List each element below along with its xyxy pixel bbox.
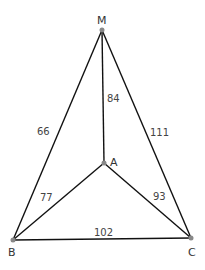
graph-diagram: M A B C 66 84 111 77 93 102 (0, 0, 205, 270)
edge-m-a (102, 30, 104, 163)
weight-m-c: 111 (150, 127, 169, 138)
edge-a-c (104, 163, 191, 238)
weight-m-b: 66 (37, 126, 50, 137)
weight-m-a: 84 (107, 93, 120, 104)
weight-a-c: 93 (153, 191, 166, 202)
edge-m-c (102, 30, 191, 238)
edge-a-b (13, 163, 104, 240)
node-label-b: B (8, 246, 16, 259)
weight-a-b: 77 (40, 192, 53, 203)
node-a (102, 161, 107, 166)
edge-b-c (13, 238, 191, 240)
node-label-c: C (188, 246, 196, 259)
node-m (100, 28, 105, 33)
node-c (189, 236, 194, 241)
edge-m-b (13, 30, 102, 240)
node-label-a: A (110, 156, 118, 169)
node-b (11, 238, 16, 243)
weight-b-c: 102 (94, 227, 113, 238)
node-label-m: M (97, 14, 107, 27)
